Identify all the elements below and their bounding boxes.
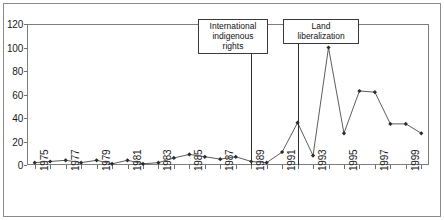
annotation-line-international-indigenous-rights (251, 43, 252, 165)
data-point-marker (357, 89, 361, 93)
data-point-marker (388, 122, 392, 126)
data-point-marker (48, 159, 52, 163)
data-point-marker (64, 158, 68, 162)
data-point-marker (218, 157, 222, 161)
annotation-label-international-indigenous-rights: International indigenous rights (198, 19, 268, 54)
data-point-marker (326, 45, 330, 49)
chart-figure: 0204060801001201975197719791981198319851… (0, 0, 444, 220)
data-point-marker (79, 161, 83, 165)
data-point-marker (94, 158, 98, 162)
data-point-marker (141, 162, 145, 166)
data-point-marker (373, 90, 377, 94)
annotation-label-land-liberalization: Land liberalization (283, 19, 359, 44)
data-point-marker (203, 155, 207, 159)
data-point-marker (234, 155, 238, 159)
data-point-marker (419, 131, 423, 135)
series-line (35, 48, 422, 164)
data-point-marker (187, 152, 191, 156)
data-point-marker (156, 161, 160, 165)
data-point-marker (311, 154, 315, 158)
data-point-marker (404, 122, 408, 126)
data-point-marker (110, 162, 114, 166)
data-point-marker (33, 161, 37, 165)
annotation-line-land-liberalization (298, 33, 299, 165)
data-point-marker (172, 156, 176, 160)
data-point-marker (342, 131, 346, 135)
data-point-marker (125, 158, 129, 162)
